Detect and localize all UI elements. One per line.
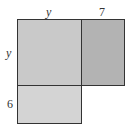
top-label-y: y xyxy=(46,6,51,18)
region-y-by-y xyxy=(17,19,82,86)
region-y-by-7 xyxy=(81,19,125,86)
left-label-y: y xyxy=(6,47,11,59)
region-6-by-y xyxy=(17,85,82,124)
top-label-7: 7 xyxy=(99,6,105,18)
left-label-6: 6 xyxy=(7,98,13,110)
